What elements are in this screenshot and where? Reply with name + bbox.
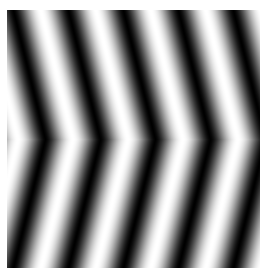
chevron-grating-image (7, 10, 260, 268)
image-stage (0, 0, 269, 280)
